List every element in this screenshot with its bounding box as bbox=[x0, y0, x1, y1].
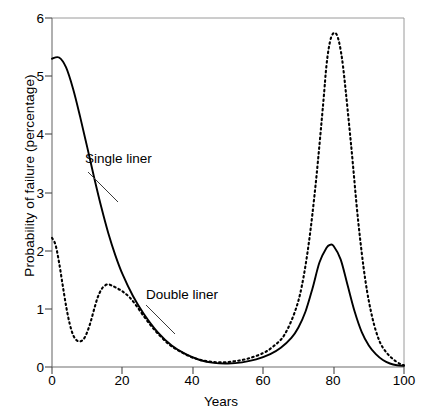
annotation-label-single-liner: Single liner bbox=[85, 152, 152, 166]
annotation-label-double-liner: Double liner bbox=[146, 288, 218, 302]
y-tick-marks bbox=[45, 18, 52, 367]
annotation-leader-single-liner bbox=[88, 172, 118, 202]
axis-frame bbox=[52, 18, 404, 367]
chart-figure: Probability of failure (percentage) 6 5 … bbox=[0, 0, 422, 419]
plot-area bbox=[0, 0, 422, 419]
series-line-single-liner bbox=[52, 57, 404, 366]
series-line-double-liner bbox=[52, 33, 404, 366]
annotation-leader-double-liner bbox=[146, 305, 175, 334]
x-tick-marks bbox=[52, 367, 404, 374]
